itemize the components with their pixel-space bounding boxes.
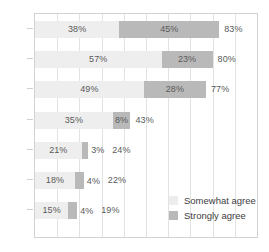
bar-segment-strongly-agree: 23%	[162, 51, 213, 68]
chart-legend: Somewhat agree Strongly agree	[169, 196, 256, 220]
bar-row: 35%8%43%	[35, 112, 154, 129]
bar-label-strongly-agree: 8%	[115, 116, 128, 125]
bar-label-somewhat-agree: 21%	[49, 146, 67, 155]
bar-label-total: 77%	[206, 81, 229, 98]
y-axis-ticks	[27, 13, 34, 238]
bar-segment-strongly-agree: 28%	[144, 81, 206, 98]
bar-row: 21%3%24%	[35, 142, 131, 159]
bar-segment-somewhat-agree: 35%	[35, 112, 113, 129]
bar-label-strongly-agree: 3%	[88, 146, 104, 155]
bar-row: 57%23%80%	[35, 51, 236, 68]
bar-label-somewhat-agree: 49%	[80, 85, 98, 94]
bar-label-strongly-agree: 23%	[178, 55, 196, 64]
y-axis-tick	[27, 58, 33, 59]
bar-row: 38%45%83%	[35, 21, 243, 38]
bar-label-strongly-agree: 28%	[166, 85, 184, 94]
y-axis-tick	[27, 119, 33, 120]
bar-segment-strongly-agree: 4%	[75, 172, 84, 189]
bar-row: 49%28%77%	[35, 81, 229, 98]
bar-row: 15%4%19%	[35, 202, 120, 219]
legend-label-somewhat-agree: Somewhat agree	[184, 196, 256, 206]
bar-label-strongly-agree: 45%	[160, 25, 178, 34]
bar-label-total: 80%	[213, 51, 236, 68]
bar-segment-strongly-agree: 8%	[113, 112, 131, 129]
stacked-bar-chart: 38%45%83%57%23%80%49%28%77%35%8%43%21%3%…	[0, 0, 269, 252]
bar-label-total: 43%	[130, 112, 153, 129]
y-axis-tick	[27, 28, 33, 29]
bar-segment-somewhat-agree: 57%	[35, 51, 162, 68]
legend-swatch-icon-strongly-agree	[169, 211, 178, 220]
bar-segment-strongly-agree: 45%	[119, 21, 219, 38]
bar-label-total: 83%	[219, 21, 242, 38]
y-axis-tick	[27, 149, 33, 150]
bar-row: 18%4%22%	[35, 172, 126, 189]
bar-segment-somewhat-agree: 18%	[35, 172, 75, 189]
bar-label-somewhat-agree: 57%	[89, 55, 107, 64]
legend-swatch-icon-somewhat-agree	[169, 196, 178, 205]
y-axis-tick	[27, 88, 33, 89]
y-axis-tick	[27, 179, 33, 180]
bar-segment-somewhat-agree: 38%	[35, 21, 119, 38]
legend-item-strongly-agree: Strongly agree	[169, 211, 256, 221]
bar-label-somewhat-agree: 38%	[68, 25, 86, 34]
bar-segment-strongly-agree: 4%	[68, 202, 77, 219]
bar-segment-somewhat-agree: 49%	[35, 81, 144, 98]
legend-item-somewhat-agree: Somewhat agree	[169, 196, 256, 206]
legend-label-strongly-agree: Strongly agree	[184, 211, 246, 221]
bar-label-somewhat-agree: 35%	[65, 116, 83, 125]
y-axis-tick	[27, 209, 33, 210]
bar-segment-somewhat-agree: 15%	[35, 202, 68, 219]
bar-label-somewhat-agree: 18%	[46, 176, 64, 185]
bar-segment-strongly-agree: 3%	[82, 142, 89, 159]
bar-label-strongly-agree: 4%	[84, 176, 100, 185]
bar-label-somewhat-agree: 15%	[42, 206, 60, 215]
bar-label-strongly-agree: 4%	[77, 206, 93, 215]
bar-segment-somewhat-agree: 21%	[35, 142, 82, 159]
